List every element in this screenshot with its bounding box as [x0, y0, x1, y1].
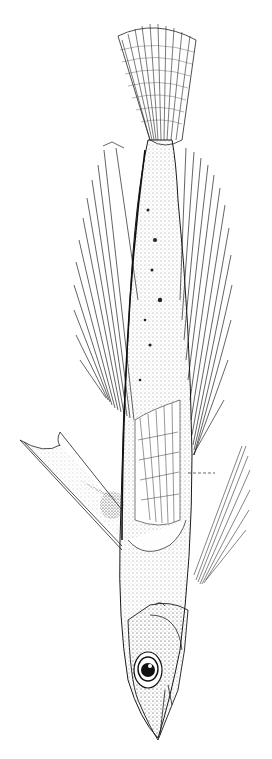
fish-drawing [0, 0, 272, 759]
eye [134, 652, 162, 688]
fish-illustration [0, 0, 272, 759]
pelvic-fin [20, 432, 124, 550]
anal-fin [194, 446, 250, 584]
head [128, 603, 188, 740]
dorsal-fin [135, 400, 180, 525]
caudal-fin [118, 24, 196, 145]
